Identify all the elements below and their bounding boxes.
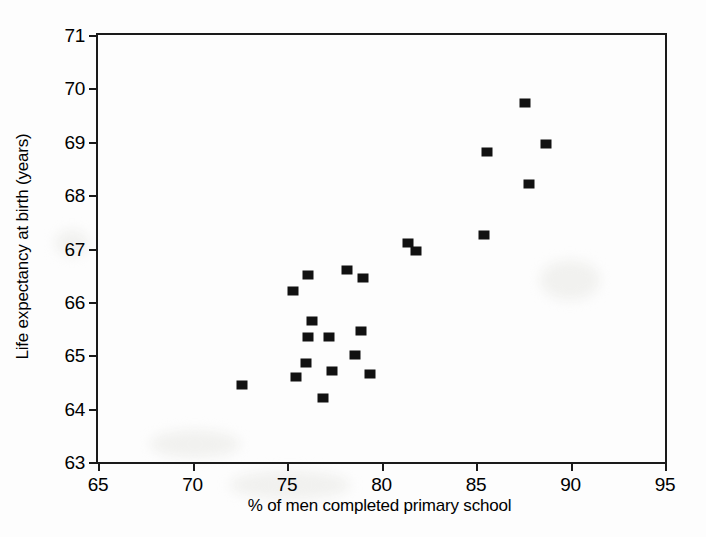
y-axis-tick-label: 66	[64, 292, 85, 311]
data-point-marker	[291, 372, 302, 381]
x-axis-tick	[571, 462, 573, 471]
data-point-marker	[236, 380, 247, 389]
data-point-marker	[520, 99, 531, 108]
x-axis-tick-label: 75	[277, 475, 298, 494]
data-point-marker	[410, 247, 421, 256]
data-point-marker	[365, 369, 376, 378]
x-axis-tick	[193, 462, 195, 471]
y-axis-tick-label: 68	[64, 186, 85, 205]
x-axis-tick-label: 65	[88, 475, 109, 494]
data-point-marker	[482, 148, 493, 157]
y-axis-tick-label: 67	[64, 239, 85, 258]
data-point-marker	[302, 271, 313, 280]
y-axis-tick-label: 69	[64, 132, 85, 151]
scatter-plot-figure: 63646566676869707165707580859095 % of me…	[0, 0, 706, 537]
y-axis-tick-label: 65	[64, 346, 85, 365]
y-axis-title: Life expectancy at birth (years)	[10, 33, 34, 460]
x-axis-tick-label: 85	[466, 475, 487, 494]
plot-area: 63646566676869707165707580859095	[96, 33, 667, 464]
data-point-marker	[317, 393, 328, 402]
data-point-marker	[302, 332, 313, 341]
data-point-marker	[350, 351, 361, 360]
x-axis-tick	[382, 462, 384, 471]
y-axis-tick-label: 64	[64, 399, 85, 418]
y-axis-tick	[89, 302, 98, 304]
data-point-marker	[523, 180, 534, 189]
data-point-marker	[342, 265, 353, 274]
data-point-marker	[323, 332, 334, 341]
data-point-marker	[478, 231, 489, 240]
x-axis-tick-label: 80	[371, 475, 392, 494]
y-axis-tick	[89, 88, 98, 90]
y-axis-tick-label: 63	[64, 453, 85, 472]
x-axis-tick	[665, 462, 667, 471]
y-axis-tick	[89, 409, 98, 411]
x-axis-tick	[287, 462, 289, 471]
x-axis-title: % of men completed primary school	[96, 497, 663, 514]
data-point-marker	[300, 359, 311, 368]
y-axis-tick	[89, 355, 98, 357]
x-axis-tick-label: 90	[560, 475, 581, 494]
data-point-marker	[355, 327, 366, 336]
data-point-marker	[306, 316, 317, 325]
y-axis-tick	[89, 249, 98, 251]
y-axis-tick	[89, 142, 98, 144]
y-axis-tick	[89, 195, 98, 197]
y-axis-title-text: Life expectancy at birth (years)	[14, 133, 31, 359]
y-axis-tick	[89, 462, 98, 464]
data-point-marker	[357, 273, 368, 282]
x-axis-tick	[98, 462, 100, 471]
data-point-marker	[327, 367, 338, 376]
x-axis-tick	[476, 462, 478, 471]
y-axis-tick-label: 70	[64, 79, 85, 98]
data-point-marker	[287, 287, 298, 296]
data-point-marker	[540, 140, 551, 149]
x-axis-tick-label: 95	[655, 475, 676, 494]
y-axis-tick-label: 71	[64, 26, 85, 45]
x-axis-tick-label: 70	[182, 475, 203, 494]
y-axis-tick	[89, 35, 98, 37]
